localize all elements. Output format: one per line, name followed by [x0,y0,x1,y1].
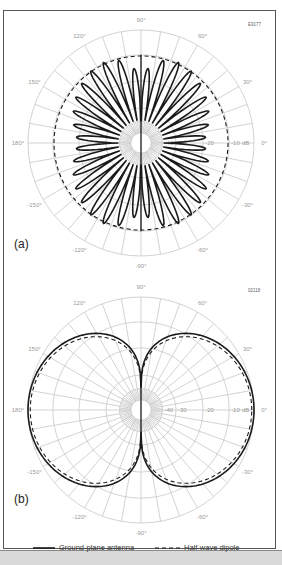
grid-spoke [162,390,252,406]
panel-label: (a) [14,237,29,251]
angle-tick-label: 120° [73,33,86,39]
angle-tick-label: -30° [242,469,254,475]
angle-tick-label: 150° [28,79,41,85]
figure-code: 02118 [248,288,261,293]
polar-chart-b: 0°30°60°90°120°150°180°-150°-120°-90°-60… [12,284,268,536]
radial-tick-label: -10 [231,140,240,146]
polar-chart-a: 0°30°60°90°120°150°180°-150°-120°-90°-60… [12,17,268,269]
angle-tick-label: -120° [72,514,87,520]
grid-spoke [121,299,137,389]
angle-tick-label: 90° [136,17,146,23]
grid-spoke [30,414,120,430]
radial-tick-label: -30 [178,407,187,413]
legend: Ground-plane antenna Half-wave dipole [33,543,239,552]
grid-spoke [145,299,161,389]
angle-tick-label: 90° [136,284,146,290]
angle-tick-label: 0° [261,140,267,146]
grid-spoke [145,431,161,521]
legend-label-dipole: Half-wave dipole [184,543,239,552]
panel-label: (b) [14,492,29,506]
radial-tick-label: -20 [205,140,214,146]
radial-tick-label: -40 [164,407,173,413]
angle-tick-label: -90° [135,530,147,536]
radial-tick-label: dB [242,407,249,413]
angle-tick-label: 60° [198,33,208,39]
angle-tick-label: -30° [242,202,254,208]
angle-tick-label: 30° [243,79,253,85]
angle-tick-label: 150° [28,346,41,352]
angle-tick-label: 180° [12,140,25,146]
angle-tick-label: 0° [261,407,267,413]
radial-tick-label: -20 [205,407,214,413]
grid-spoke [35,417,121,448]
angle-tick-label: -90° [135,263,147,269]
angle-tick-label: 60° [198,300,208,306]
grid-spoke [162,414,252,430]
grid-spoke [161,371,247,402]
angle-tick-label: -60° [197,247,209,253]
grid-spoke [35,371,121,402]
grid-spoke [157,424,227,483]
grid-spoke [161,417,247,448]
grid-spoke [157,337,227,396]
figure-code: E9177 [248,22,262,27]
radial-tick-label: -10 [231,407,240,413]
angle-tick-label: -150° [27,202,42,208]
radial-tick-label: dB [242,140,249,146]
angle-tick-label: 180° [12,407,25,413]
angle-tick-label: 120° [73,300,86,306]
grid-spoke [30,390,120,406]
angle-tick-label: -60° [197,514,209,520]
angle-tick-label: -150° [27,469,42,475]
grid-spoke [121,431,137,521]
angle-tick-label: -120° [72,247,87,253]
angle-tick-label: 30° [243,346,253,352]
legend-label-ground-plane: Ground-plane antenna [59,543,135,552]
